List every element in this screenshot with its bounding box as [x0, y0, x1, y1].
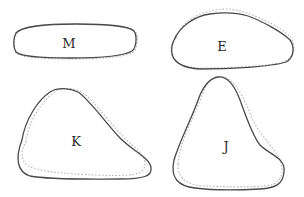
- shape-k-solid-outline: [18, 89, 151, 179]
- shape-e-dotted-outline: [171, 9, 294, 68]
- shape-k-label: K: [71, 134, 81, 149]
- shape-k: K: [18, 89, 151, 180]
- shape-j: J: [173, 77, 284, 190]
- shape-e-solid-outline: [172, 13, 293, 69]
- shape-k-dotted-outline: [22, 89, 145, 176]
- shape-outline-diagram: M E K J: [0, 0, 304, 197]
- shape-j-dotted-outline: [178, 77, 282, 187]
- shape-m-label: M: [62, 36, 75, 51]
- shape-m: M: [14, 24, 137, 59]
- shape-e: E: [171, 9, 294, 69]
- shape-j-solid-outline: [173, 77, 284, 190]
- shape-e-label: E: [217, 39, 227, 54]
- shape-j-label: J: [221, 139, 228, 154]
